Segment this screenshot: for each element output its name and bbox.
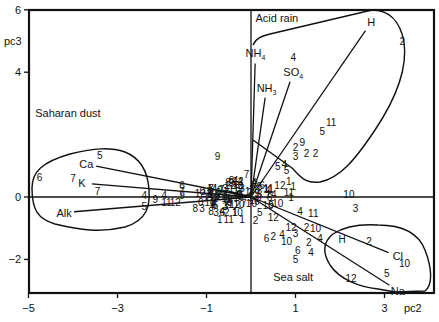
loading-label-h: H xyxy=(367,16,375,28)
y-axis-title: pc3 xyxy=(4,35,22,47)
sample-label: 2 xyxy=(270,231,276,242)
sample-label: 2 xyxy=(304,222,310,233)
sample-label: 12 xyxy=(268,212,280,223)
plot-frame xyxy=(29,10,434,293)
y-tick-label: 6 xyxy=(15,4,21,16)
sample-label: 10 xyxy=(343,189,355,200)
sample-label: 3 xyxy=(199,203,205,214)
loading-label-nh3: NH3 xyxy=(257,82,277,96)
sample-label: H xyxy=(339,234,346,245)
y-tick-label: 4 xyxy=(15,66,21,78)
loading-label-cl: Cl xyxy=(393,250,403,262)
loading-label-ca: Ca xyxy=(79,158,94,170)
sample-label: 11 xyxy=(326,117,337,128)
sample-label: 6 xyxy=(264,233,270,244)
sample-label: 2 xyxy=(313,148,319,159)
x-tick-label: 1 xyxy=(292,302,298,314)
sample-label: 11 xyxy=(224,214,235,225)
sample-label: 5 xyxy=(97,150,103,161)
sample-label: 9 xyxy=(153,194,159,205)
loading-vector-h xyxy=(251,31,365,197)
x-tick-label: −5 xyxy=(22,302,35,314)
sample-label: 5 xyxy=(384,268,390,279)
y-tick-label: −2 xyxy=(8,253,21,265)
sample-label: 2 xyxy=(304,148,310,159)
sample-label: 7 xyxy=(70,173,76,184)
sample-label: 7 xyxy=(244,169,250,180)
sample-label: 8 xyxy=(208,206,214,217)
acid-rain-envelope xyxy=(253,10,405,182)
group-label-sea-salt: Sea salt xyxy=(273,271,313,283)
pca-biplot-chart: 1234680711129510123468071112951012346807… xyxy=(0,0,439,322)
x-tick-label: 3 xyxy=(381,302,387,314)
sample-label: 11 xyxy=(308,208,319,219)
sample-label: 6 xyxy=(37,172,43,183)
loading-label-alk: Alk xyxy=(56,207,72,219)
axes xyxy=(24,10,434,298)
x-tick-label: −3 xyxy=(111,302,124,314)
sample-label: 8 xyxy=(193,203,199,214)
chart-text: −5−3−113−2046pc2pc3Acid rainSaharan dust… xyxy=(4,4,422,314)
sample-label: 5 xyxy=(293,254,299,265)
sample-label: 3 xyxy=(293,151,299,162)
sample-label: 4 xyxy=(290,52,296,63)
loading-label-nh4: NH4 xyxy=(246,47,266,61)
sample-label: 1 xyxy=(239,214,245,225)
sample-label: 5 xyxy=(319,126,325,137)
sample-label: 3 xyxy=(293,228,299,239)
sample-label: 2 xyxy=(400,36,406,47)
sample-label: 4 xyxy=(141,190,147,201)
loading-label-k: K xyxy=(78,177,86,189)
x-axis-title: pc2 xyxy=(404,302,422,314)
chart-canvas: 1234680711129510123468071112951012346807… xyxy=(0,0,439,322)
sample-label: 4 xyxy=(297,206,303,217)
loading-label-na: Na xyxy=(391,285,406,297)
sample-label: 12 xyxy=(346,273,358,284)
sample-label: 10 xyxy=(281,236,293,247)
sample-label: 5 xyxy=(284,165,290,176)
loading-vectors xyxy=(74,31,389,286)
sample-label: 7 xyxy=(95,186,101,197)
sample-label: 3 xyxy=(239,183,245,194)
group-envelopes xyxy=(32,10,431,292)
sample-label: 5 xyxy=(275,161,281,172)
x-tick-label: −1 xyxy=(200,302,213,314)
y-tick-label: 0 xyxy=(15,191,21,203)
loading-label-so4: SO4 xyxy=(283,66,303,80)
sample-label: 3 xyxy=(353,203,359,214)
group-label-acid-rain: Acid rain xyxy=(255,12,298,24)
sample-label: 9 xyxy=(215,151,221,162)
sample-label: 1 xyxy=(217,214,223,225)
sample-label: 9 xyxy=(179,190,185,201)
sample-label: 4 xyxy=(317,233,323,244)
cluster-sample: 1 xyxy=(233,192,239,203)
sample-label: 6 xyxy=(259,180,265,191)
sample-label: 4 xyxy=(308,247,314,258)
group-label-saharan-dust: Saharan dust xyxy=(35,107,100,119)
sample-label: 5 xyxy=(141,201,147,212)
loading-label-mg: Mg xyxy=(208,182,223,194)
sample-label: 2 xyxy=(253,215,259,226)
sample-label: 2 xyxy=(366,236,372,247)
sample-label: 10 xyxy=(272,198,284,209)
sample-label: 9 xyxy=(299,137,305,148)
